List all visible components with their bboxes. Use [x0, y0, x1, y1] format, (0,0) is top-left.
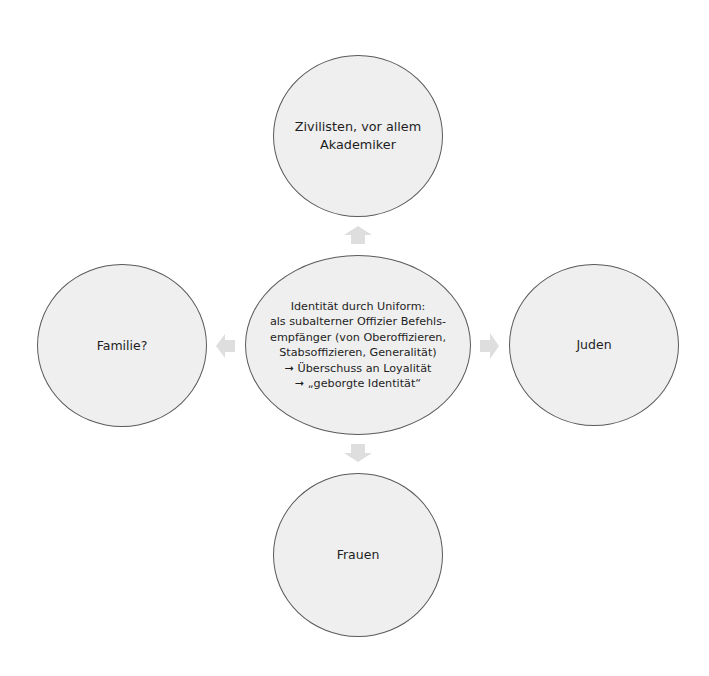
node-jews: Juden [509, 264, 679, 426]
node-label: Zivilisten, vor allem Akademiker [295, 118, 421, 154]
node-women: Frauen [273, 473, 443, 637]
label-line: als subalterner Offizier Befehls- [270, 314, 446, 330]
node-identity-uniform: Identität durch Uniform: als subalterner… [245, 255, 471, 435]
arrow-right-icon [480, 333, 499, 359]
node-civilians: Zivilisten, vor allem Akademiker [273, 55, 443, 217]
label-line: Frauen [337, 547, 380, 563]
label-line: empfänger (von Oberoffizieren, [270, 330, 446, 346]
arrow-left-icon [216, 334, 235, 358]
label-line: ➞ „geborgte Identität“ [270, 376, 446, 392]
node-label: Frauen [337, 547, 380, 563]
label-line: Identität durch Uniform: [270, 299, 446, 315]
node-family: Familie? [37, 264, 207, 427]
arrow-up-icon [344, 226, 372, 244]
node-label: Familie? [97, 338, 148, 354]
label-line: Juden [576, 337, 611, 353]
label-line: Familie? [97, 338, 148, 354]
label-line: ➞ Überschuss an Loyalität [270, 361, 446, 377]
label-line: Stabsoffizieren, Generalität) [270, 345, 446, 361]
label-line: Akademiker [295, 136, 421, 154]
label-line: Zivilisten, vor allem [295, 118, 421, 136]
node-label: Identität durch Uniform: als subalterner… [270, 299, 446, 392]
node-label: Juden [576, 337, 611, 353]
arrow-down-icon [344, 444, 372, 462]
